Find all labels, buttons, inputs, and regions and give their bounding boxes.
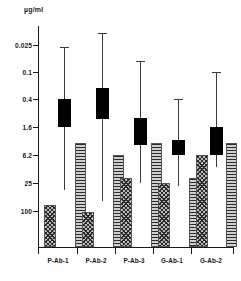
cross-hatch-bar (196, 155, 208, 247)
box-marker (58, 99, 71, 127)
whisker-cap-top (212, 72, 221, 73)
box-marker (172, 140, 185, 155)
horizontal-stripe-bar (226, 143, 237, 247)
box-marker (134, 118, 147, 145)
chart-canvas: µg/ml 0.025 0.1 0.4 1.6 6.2 25 100 P-Ab-… (0, 0, 241, 281)
whisker-cap-top (98, 33, 107, 34)
box-marker (210, 127, 223, 155)
cross-hatch-bar (158, 183, 170, 247)
whisker-cap-top (174, 99, 183, 100)
whisker-cap-top (136, 61, 145, 62)
cross-hatch-bar (120, 178, 132, 247)
cross-hatch-bar (82, 212, 94, 247)
box-marker (96, 88, 109, 119)
plot-area (0, 0, 241, 281)
cross-hatch-bar (44, 205, 56, 247)
whisker-cap-top (60, 47, 69, 48)
